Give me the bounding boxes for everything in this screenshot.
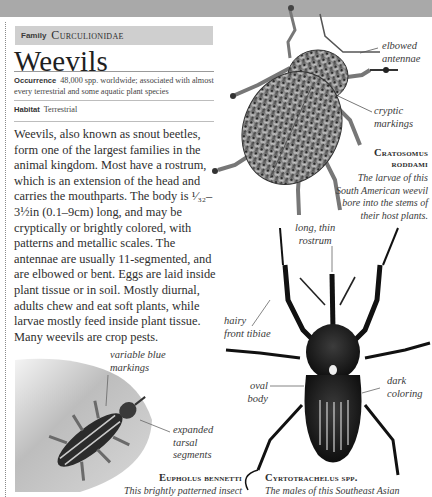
- annotation-line: markings: [110, 362, 166, 375]
- annotation-line: coloring: [387, 388, 423, 401]
- annotation-line: antennae: [382, 53, 421, 66]
- body-paragraph: Weevils, also known as snout beetles, fo…: [14, 127, 222, 345]
- annotation-line: elbowed: [382, 40, 421, 53]
- caption-line: The larvae of this: [336, 172, 428, 185]
- annotation-line: hairy: [224, 315, 271, 328]
- caption-text-cyrtotrachelus: The males of this Southeast Asian: [265, 485, 400, 497]
- annotation-line: segments: [173, 449, 213, 462]
- annotation-line: cryptic: [374, 105, 413, 118]
- caption-title-cyrtotrachelus: Cyrtotrachelus spp.: [265, 472, 358, 483]
- divider: [14, 121, 214, 122]
- annotation-line: tarsal: [173, 437, 213, 450]
- occurrence-fact: Occurrence 48,000 spp. worldwide; associ…: [14, 75, 219, 97]
- annotation-line: body: [236, 393, 268, 406]
- annotation-line: long, thin: [295, 222, 335, 235]
- occurrence-label: Occurrence: [14, 76, 56, 85]
- annotation-cryptic-markings: cryptic markings: [374, 105, 413, 130]
- annotation-line: oval: [236, 380, 268, 393]
- annotation-elbowed-antennae: elbowed antennae: [382, 40, 421, 65]
- caption-text-eupholus: This brightly patterned insect: [124, 485, 242, 497]
- caption-title-line: roddami: [374, 158, 428, 169]
- annotation-line: rostrum: [295, 235, 335, 248]
- annotation-line: expanded: [173, 424, 213, 437]
- page-title: Weevils: [14, 45, 108, 78]
- divider: [14, 100, 214, 101]
- annotation-variable-blue-markings: variable blue markings: [110, 349, 166, 374]
- habitat-fact: Habitat Terrestrial: [14, 105, 77, 114]
- eupholus-illustration: [15, 359, 164, 492]
- caption-line: their host plants.: [336, 210, 428, 223]
- caption-line: bore into the stems of: [336, 197, 428, 210]
- annotation-line: dark: [387, 375, 423, 388]
- family-label: Family: [21, 31, 46, 40]
- caption-title-line: Cratosomus: [374, 147, 428, 158]
- annotation-expanded-tarsal-segments: expanded tarsal segments: [173, 424, 213, 462]
- habitat-label: Habitat: [14, 105, 40, 114]
- family-header: Family Curculionidae: [15, 26, 213, 45]
- habitat-value: Terrestrial: [44, 105, 78, 114]
- annotation-line: variable blue: [110, 349, 166, 362]
- caption-line: South American weevil: [336, 185, 428, 198]
- annotation-line: markings: [374, 118, 413, 131]
- caption-title-cratosomus: Cratosomus roddami: [374, 147, 428, 169]
- divider: [14, 71, 214, 72]
- annotation-line: front tibiae: [224, 328, 271, 341]
- caption-text-cratosomus: The larvae of this South American weevil…: [336, 172, 428, 222]
- annotation-long-thin-rostrum: long, thin rostrum: [295, 222, 335, 247]
- annotation-oval-body: oval body: [236, 380, 268, 405]
- cyrtotrachelus-illustration: [226, 228, 430, 490]
- annotation-dark-coloring: dark coloring: [387, 375, 423, 400]
- annotation-hairy-front-tibiae: hairy front tibiae: [224, 315, 271, 340]
- caption-title-eupholus: Eupholus bennetti: [159, 472, 242, 483]
- family-name: Curculionidae: [51, 28, 123, 43]
